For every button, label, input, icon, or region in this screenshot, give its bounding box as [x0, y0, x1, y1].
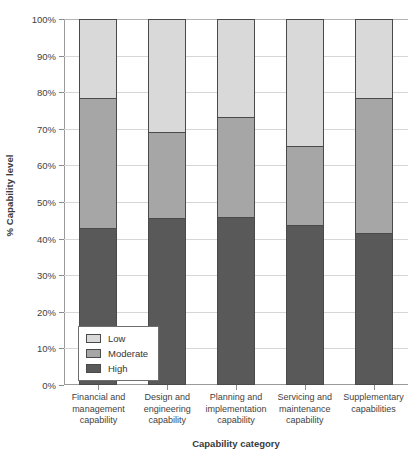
- bar-segment-low[interactable]: [355, 19, 393, 98]
- y-axis-tick-label: 40%: [37, 233, 56, 244]
- bar-segment-moderate[interactable]: [79, 98, 117, 229]
- plot-area: 0%10%20%30%40%50%60%70%80%90%100% LowMod…: [64, 19, 408, 385]
- x-axis-category-line: capability: [133, 415, 202, 427]
- y-axis-tick-label: 60%: [37, 160, 56, 171]
- x-axis-category-label: Planning andimplementationcapability: [202, 392, 271, 427]
- y-axis-tick: [59, 348, 64, 349]
- legend: LowModerateHigh: [78, 326, 159, 381]
- y-axis-tick-label: 80%: [37, 87, 56, 98]
- x-axis-category-line: capability: [270, 415, 339, 427]
- y-axis-tick-label: 30%: [37, 270, 56, 281]
- x-axis-tick: [236, 385, 237, 390]
- x-axis-category-line: engineering: [133, 404, 202, 416]
- legend-swatch-icon: [86, 349, 101, 358]
- legend-item-label: Moderate: [108, 348, 148, 359]
- x-axis-category-line: Design and: [133, 392, 202, 404]
- x-axis-category-line: implementation: [202, 404, 271, 416]
- bar-4[interactable]: [286, 19, 324, 385]
- x-axis-category-line: Financial and: [64, 392, 133, 404]
- y-axis-tick: [59, 19, 64, 20]
- bar-segment-moderate[interactable]: [355, 98, 393, 233]
- bar-segment-low[interactable]: [217, 19, 255, 117]
- legend-swatch-icon: [86, 364, 101, 373]
- y-axis-tick: [59, 312, 64, 313]
- x-axis-category-line: capabilities: [339, 404, 408, 416]
- chart-page: % Capability level 0%10%20%30%40%50%60%7…: [0, 0, 420, 465]
- bar-segment-moderate[interactable]: [286, 146, 324, 225]
- x-axis-category-label: Supplementarycapabilities: [339, 392, 408, 415]
- y-axis-tick-label: 50%: [37, 197, 56, 208]
- y-axis-title-text: % Capability level: [4, 154, 15, 236]
- y-axis-tick: [59, 385, 64, 386]
- y-axis-tick-label: 10%: [37, 343, 56, 354]
- x-axis-tick: [98, 385, 99, 390]
- y-axis-tick-label: 100%: [32, 14, 56, 25]
- legend-swatch-icon: [86, 334, 101, 343]
- bar-segment-low[interactable]: [148, 19, 186, 132]
- x-axis-category-label: Design andengineeringcapability: [133, 392, 202, 427]
- x-axis-tick: [167, 385, 168, 390]
- legend-item-label: Low: [108, 333, 125, 344]
- y-axis-tick: [59, 92, 64, 93]
- x-axis-category-label: Financial andmanagementcapability: [64, 392, 133, 427]
- y-axis-tick-label: 90%: [37, 50, 56, 61]
- y-axis-tick-label: 20%: [37, 306, 56, 317]
- x-axis-category-line: Supplementary: [339, 392, 408, 404]
- bar-3[interactable]: [217, 19, 255, 385]
- x-axis-category-line: capability: [202, 415, 271, 427]
- bar-segment-low[interactable]: [286, 19, 324, 146]
- bar-5[interactable]: [355, 19, 393, 385]
- x-axis-category-label: Servicing andmaintenancecapability: [270, 392, 339, 427]
- y-axis-tick: [59, 165, 64, 166]
- bar-segment-high[interactable]: [217, 217, 255, 385]
- bar-segment-low[interactable]: [79, 19, 117, 98]
- legend-item-label: High: [108, 363, 128, 374]
- x-axis-category-line: Planning and: [202, 392, 271, 404]
- y-axis-tick-label: 0%: [42, 380, 56, 391]
- x-axis-category-line: maintenance: [270, 404, 339, 416]
- y-axis-tick: [59, 202, 64, 203]
- y-axis-tick: [59, 275, 64, 276]
- bar-segment-moderate[interactable]: [148, 132, 186, 218]
- y-axis-tick: [59, 239, 64, 240]
- y-axis-tick-label: 70%: [37, 123, 56, 134]
- x-axis-title: Capability category: [64, 438, 408, 449]
- x-axis-labels: Financial andmanagementcapabilityDesign …: [64, 392, 408, 438]
- legend-item-high[interactable]: High: [86, 363, 148, 374]
- x-axis-tick: [305, 385, 306, 390]
- x-axis-category-line: management: [64, 404, 133, 416]
- y-axis-tick: [59, 56, 64, 57]
- bar-segment-high[interactable]: [355, 233, 393, 385]
- legend-item-low[interactable]: Low: [86, 333, 148, 344]
- x-axis-category-line: Servicing and: [270, 392, 339, 404]
- x-axis-tick: [374, 385, 375, 390]
- x-axis-category-line: capability: [64, 415, 133, 427]
- y-axis-title: % Capability level: [0, 0, 18, 390]
- y-axis-tick: [59, 129, 64, 130]
- bar-segment-moderate[interactable]: [217, 117, 255, 217]
- legend-item-moderate[interactable]: Moderate: [86, 348, 148, 359]
- bar-segment-high[interactable]: [286, 225, 324, 385]
